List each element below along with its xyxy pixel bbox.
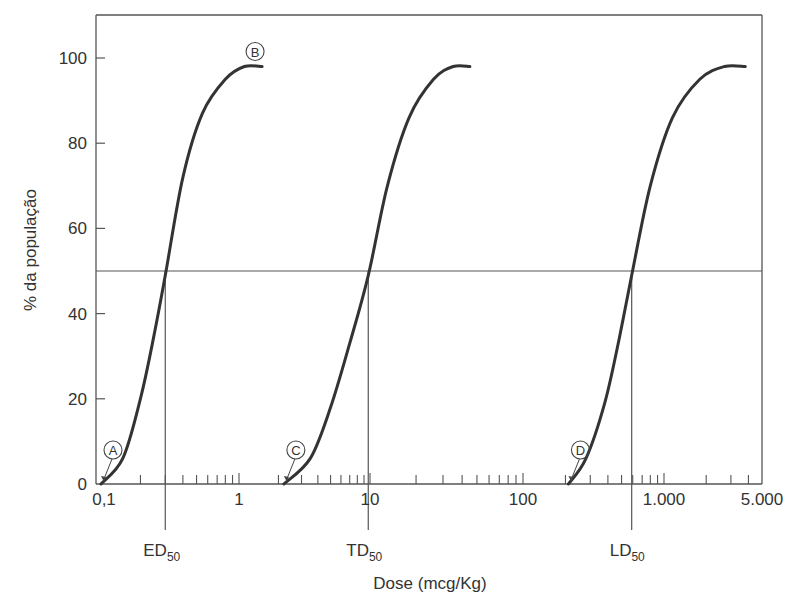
- x-tick-label: 5.000: [741, 490, 784, 509]
- series-curve-1: [101, 66, 262, 484]
- series-curve-2: [284, 66, 470, 484]
- y-tick-label: 60: [68, 219, 87, 238]
- marker-ld-label: LD50: [610, 541, 645, 564]
- y-tick-label: 80: [68, 134, 87, 153]
- annotation-label-c: C: [291, 443, 300, 458]
- x-tick-label: 10: [361, 490, 380, 509]
- series-curve-3: [568, 66, 745, 484]
- annotation-label-a: A: [109, 443, 118, 458]
- y-tick-label: 20: [68, 390, 87, 409]
- annotation-label-d: D: [576, 443, 585, 458]
- x-tick-label: 1.000: [643, 490, 686, 509]
- y-axis-title: % da população: [21, 189, 40, 311]
- annotation-label-b: B: [251, 45, 260, 60]
- y-tick-label: 40: [68, 305, 87, 324]
- y-tick-label: 0: [78, 475, 87, 494]
- x-tick-label: 1: [234, 490, 243, 509]
- x-axis-title: Dose (mcg/Kg): [373, 574, 486, 593]
- x-tick-label: 0,1: [92, 490, 116, 509]
- x-tick-label: 100: [509, 490, 537, 509]
- y-tick-label: 100: [59, 49, 87, 68]
- marker-ed-label: ED50: [143, 541, 180, 564]
- dose-response-chart: 0204060801000,11101001.0005.000ED50TD50L…: [0, 0, 801, 610]
- marker-td-label: TD50: [346, 541, 382, 564]
